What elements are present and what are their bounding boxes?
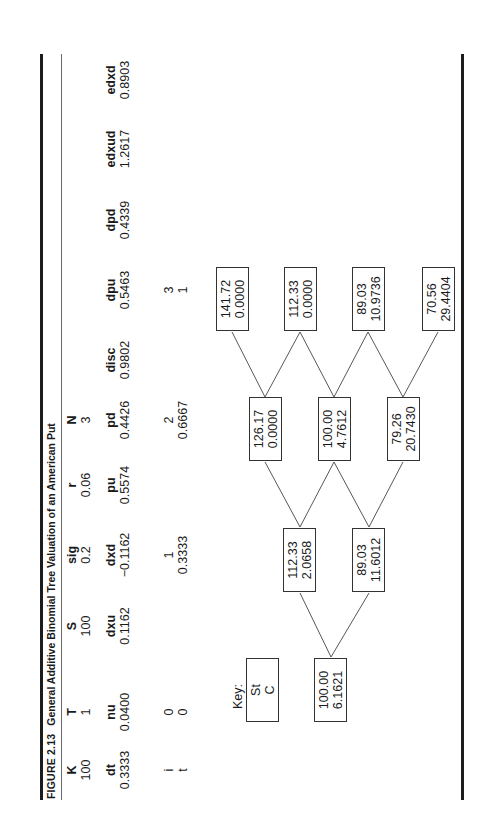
node-stock-price: 89.03 — [355, 544, 369, 575]
tree-node-3-2: 89.03 10.9736 — [352, 267, 385, 331]
node-stock-price: 79.26 — [390, 413, 404, 444]
node-option-value: 4.7612 — [335, 410, 349, 448]
tree-node-0-0: 100.00 6.1621 — [314, 658, 347, 722]
node-option-value: 11.6012 — [369, 538, 383, 582]
node-option-value: 10.9736 — [369, 276, 383, 321]
node-stock-price: 112.33 — [287, 280, 301, 317]
node-option-value: 0.0000 — [266, 410, 280, 448]
key-option-label: C — [263, 685, 277, 694]
tree-node-2-2: 79.26 20.7430 — [387, 397, 420, 461]
rotated-figure-page: FIGURE 2.13General Additive Binomial Tre… — [0, 0, 480, 837]
node-option-value: 0.0000 — [301, 280, 315, 318]
bottom-rule — [461, 54, 464, 800]
node-stock-price: 112.33 — [286, 541, 300, 578]
tree-node-3-0: 141.72 0.0000 — [216, 267, 249, 331]
key-label: Key: — [231, 684, 245, 709]
tree-node-3-1: 112.33 0.0000 — [284, 267, 317, 331]
tree-node-1-0: 112.33 2.0658 — [283, 528, 316, 592]
tree-node-1-1: 89.03 11.6012 — [352, 528, 385, 592]
node-stock-price: 100.00 — [321, 410, 335, 448]
tree-node-3-3: 70.56 29.4404 — [422, 267, 455, 331]
node-option-value: 6.1621 — [331, 671, 345, 709]
node-stock-price: 126.17 — [252, 410, 266, 448]
node-option-value: 0.0000 — [233, 280, 247, 318]
node-option-value: 29.4404 — [439, 276, 453, 321]
node-stock-price: 100.00 — [317, 671, 331, 709]
node-stock-price: 70.56 — [425, 283, 439, 314]
node-stock-price: 89.03 — [355, 283, 369, 314]
node-stock-price: 141.72 — [219, 280, 233, 318]
node-option-value: 20.7430 — [404, 406, 418, 451]
tree-node-2-1: 100.00 4.7612 — [318, 397, 351, 461]
tree-node-2-0: 126.17 0.0000 — [249, 397, 282, 461]
key-box: St C — [246, 658, 279, 722]
node-option-value: 2.0658 — [300, 541, 314, 579]
key-stock-label: St — [249, 684, 263, 696]
